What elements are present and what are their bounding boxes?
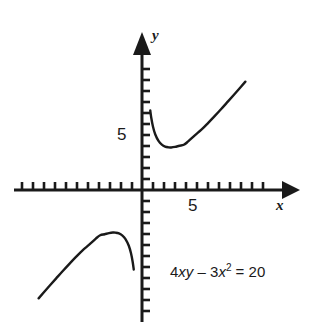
y-axis-label: y: [152, 28, 159, 43]
curve-branch-lower-left: [39, 233, 134, 299]
y-axis-arrow-icon: [133, 32, 151, 55]
graph-figure: y x 5 5 4xy – 3x2 = 20: [0, 0, 311, 328]
x-axis-label: x: [276, 198, 284, 213]
equation-var-xy: xy: [178, 263, 193, 280]
equation-rhs: 20: [249, 263, 266, 280]
equation-minus: –: [198, 263, 206, 280]
equation-annotation: 4xy – 3x2 = 20: [170, 264, 265, 279]
y-axis-tick-label-5: 5: [117, 126, 126, 143]
x-axis-tick-label-5: 5: [188, 197, 197, 214]
curve-branch-upper-right: [150, 82, 245, 148]
equation-var-x: x: [218, 263, 226, 280]
x-axis-arrow-icon: [282, 181, 300, 199]
